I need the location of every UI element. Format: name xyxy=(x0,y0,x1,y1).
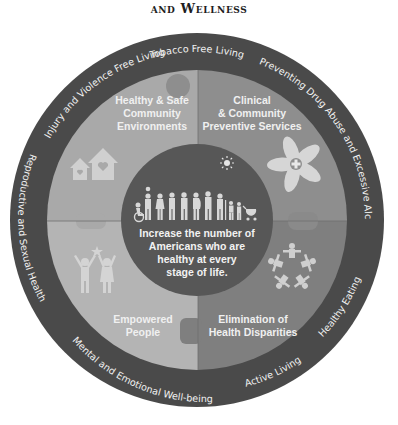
svg-text:& Community: & Community xyxy=(218,107,286,119)
svg-text:People: People xyxy=(126,326,161,338)
svg-text:stage of life.: stage of life. xyxy=(166,266,227,278)
puzzle-knob xyxy=(180,318,202,344)
prevention-strategy-wheel: Injury and Violence Free Living Tobacco … xyxy=(0,0,398,425)
svg-text:Community: Community xyxy=(123,107,181,119)
svg-text:Clinical: Clinical xyxy=(233,94,270,106)
svg-text:Preventive Services: Preventive Services xyxy=(202,120,301,132)
svg-text:Environments: Environments xyxy=(117,120,187,132)
svg-text:Elimination of: Elimination of xyxy=(218,313,288,325)
svg-text:Empowered: Empowered xyxy=(113,313,173,325)
svg-text:healthy at every: healthy at every xyxy=(157,253,237,265)
svg-text:Increase the number of: Increase the number of xyxy=(139,227,255,239)
svg-text:Health Disparities: Health Disparities xyxy=(209,326,298,338)
svg-text:Healthy & Safe: Healthy & Safe xyxy=(115,94,189,106)
svg-text:Americans who are: Americans who are xyxy=(149,240,245,252)
quadrant-top-left: Healthy & Safe Community Environments xyxy=(115,94,189,132)
quadrant-bottom-right: Elimination of Health Disparities xyxy=(209,313,298,338)
